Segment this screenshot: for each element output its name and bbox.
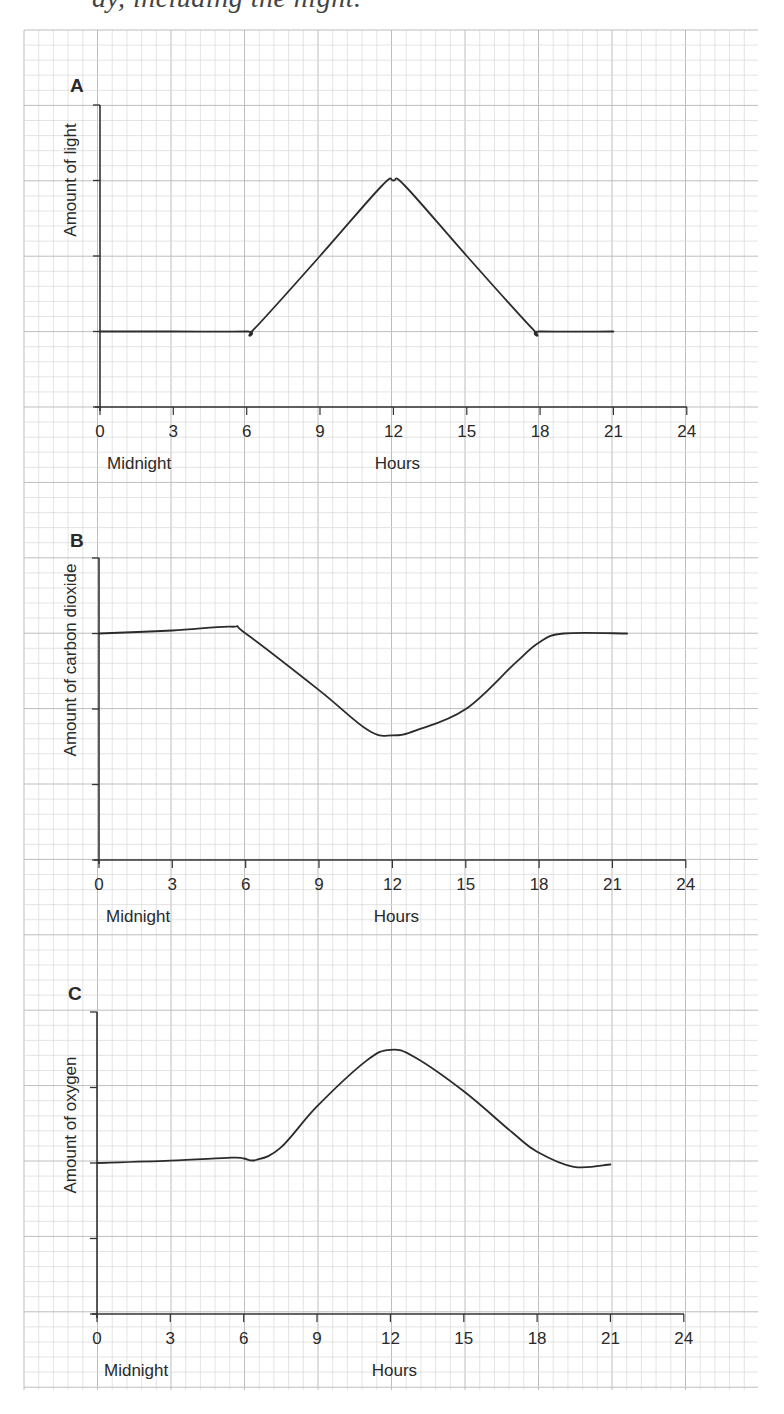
x-tick-label: 15 (454, 1329, 473, 1348)
panel-label: B (70, 530, 84, 551)
graph-paper-grid (24, 30, 758, 1390)
x-tick-label: 18 (531, 422, 550, 441)
x-tick-label: 15 (456, 875, 475, 894)
x-tick-label: 6 (239, 1329, 248, 1348)
panel-label: A (70, 75, 84, 96)
y-axis-title: Amount of oxygen (61, 1056, 80, 1193)
x-tick-label: 0 (92, 1329, 101, 1348)
x-tick-label: 3 (168, 875, 177, 894)
x-tick-label: 9 (315, 422, 324, 441)
x-tick-label: 6 (241, 875, 250, 894)
x-tick-label: 21 (601, 1329, 620, 1348)
x-tick-label: 9 (312, 1329, 321, 1348)
x-tick-label: 24 (676, 875, 695, 894)
x-tick-label: 12 (383, 875, 402, 894)
midnight-label: Midnight (106, 907, 171, 926)
data-curve (99, 626, 627, 736)
x-tick-label: 21 (603, 875, 622, 894)
x-tick-label: 3 (166, 1329, 175, 1348)
x-tick-label: 12 (381, 1329, 400, 1348)
x-tick-label: 6 (242, 422, 251, 441)
x-tick-label: 15 (457, 422, 476, 441)
x-tick-label: 18 (530, 875, 549, 894)
x-tick-label: 24 (674, 1329, 693, 1348)
panel-label: C (68, 983, 82, 1004)
y-axis-title: Amount of carbon dioxide (61, 564, 80, 757)
x-tick-label: 12 (384, 422, 403, 441)
midnight-label: Midnight (107, 454, 172, 473)
y-axis-title: Amount of light (61, 123, 80, 237)
x-tick-label: 18 (528, 1329, 547, 1348)
x-axis-title: Hours (372, 1361, 417, 1380)
x-axis-title: Hours (375, 454, 420, 473)
x-tick-label: 24 (677, 422, 696, 441)
x-axis-title: Hours (374, 907, 419, 926)
x-tick-label: 0 (94, 875, 103, 894)
graph-paper-figure: A03691215182124MidnightHoursAmount of li… (0, 0, 784, 1414)
x-tick-label: 21 (604, 422, 623, 441)
midnight-label: Midnight (104, 1361, 169, 1380)
data-curve (97, 1050, 610, 1168)
x-tick-label: 3 (169, 422, 178, 441)
data-curve (100, 178, 613, 335)
x-tick-label: 9 (314, 875, 323, 894)
x-tick-label: 0 (95, 422, 104, 441)
